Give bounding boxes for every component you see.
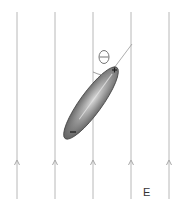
dipole [56, 61, 126, 145]
dipole-axis-line [114, 44, 132, 68]
field-label: E [143, 186, 150, 198]
dipole-diagram [0, 0, 182, 209]
theta-icon [99, 51, 109, 64]
